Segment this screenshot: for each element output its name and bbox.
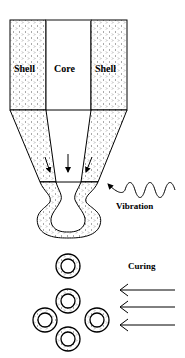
- label-shell-right: Shell: [95, 63, 116, 74]
- label-shell-left: Shell: [14, 63, 35, 74]
- capsule: [85, 308, 109, 332]
- curing-arrows: [120, 284, 175, 331]
- core-shell-diagram: Shell Core Shell Vibration Curing: [0, 0, 185, 358]
- label-vibration: Vibration: [116, 201, 153, 211]
- funnel-shell-right: [81, 110, 127, 182]
- vibration-indicator: Vibration: [108, 183, 175, 212]
- wave-arrow-icon: [108, 183, 175, 198]
- arrow-left-icon: [120, 319, 175, 331]
- droplet-shell: [37, 182, 101, 238]
- label-curing: Curing: [128, 261, 156, 271]
- capsule: [56, 289, 80, 313]
- arrow-left-icon: [120, 301, 175, 313]
- funnel-shell-left: [10, 110, 56, 182]
- label-core: Core: [54, 63, 75, 74]
- capsule: [33, 308, 57, 332]
- capsule: [56, 254, 80, 278]
- arrow-left-icon: [120, 284, 175, 296]
- forming-droplet: [37, 182, 101, 238]
- capsule: [56, 327, 80, 351]
- capsules: [33, 254, 109, 351]
